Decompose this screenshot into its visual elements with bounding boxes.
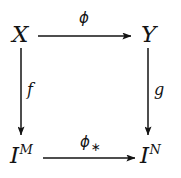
- edge-label-top-phi: ϕ: [79, 11, 89, 26]
- edge-label-top-phi-text: ϕ: [79, 9, 89, 27]
- commutative-diagram: X Y IM IN ϕ ϕ∗ f g: [0, 0, 181, 178]
- node-top-left: X: [12, 23, 28, 46]
- node-bottom-right-superscript: N: [150, 142, 161, 157]
- edge-label-right-g: g: [154, 82, 164, 98]
- node-bottom-right: IN: [140, 144, 161, 167]
- node-top-right-label: Y: [141, 21, 156, 47]
- node-bottom-left-superscript: M: [20, 142, 33, 157]
- node-bottom-right-label: I: [140, 142, 149, 168]
- edge-label-right-g-text: g: [154, 80, 164, 99]
- node-bottom-left-label: I: [10, 142, 19, 168]
- edge-label-left-f: f: [27, 82, 33, 98]
- node-top-left-label: X: [12, 21, 28, 47]
- edge-label-bottom-phi-star: ϕ∗: [80, 135, 100, 150]
- edge-label-left-f-text: f: [27, 80, 33, 99]
- node-top-right: Y: [141, 23, 156, 46]
- edge-label-bottom-phi-text: ϕ: [80, 133, 90, 151]
- edge-label-bottom-phi-subscript: ∗: [90, 140, 100, 154]
- node-bottom-left: IM: [10, 144, 33, 167]
